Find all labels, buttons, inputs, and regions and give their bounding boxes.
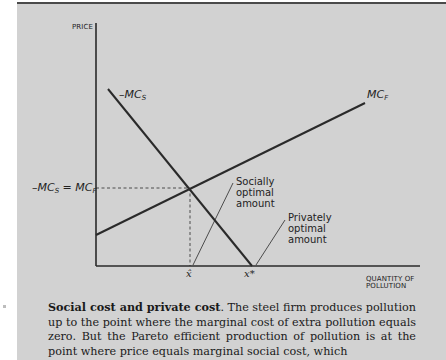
mcs-curve-label: –MCS — [119, 88, 146, 102]
mcs-label-main: –MC — [119, 88, 142, 101]
private-annot-line1: Privately — [288, 212, 332, 223]
social-optimum-annotation: Socially optimal amount — [236, 176, 275, 209]
x-hat-tick-label: x̂ — [186, 268, 192, 279]
mcs-label-sub: S — [142, 94, 146, 102]
social-annot-line2: optimal — [236, 187, 275, 198]
private-optimum-leader — [256, 220, 285, 265]
social-annot-line1: Socially — [236, 176, 275, 187]
private-annot-line2: optimal — [288, 223, 332, 234]
mcs-curve — [108, 89, 252, 266]
equilibrium-price-label: –MCS = MCF — [32, 181, 97, 195]
figure-caption: Social cost and private cost. The steel … — [48, 300, 416, 359]
eq-right-sub: F — [93, 187, 97, 195]
x-star-tick-label: x* — [244, 268, 255, 279]
eq-left-main: –MC — [32, 181, 55, 194]
social-annot-line3: amount — [236, 198, 275, 209]
y-axis-label: PRICE — [72, 24, 93, 31]
social-optimum-leader — [193, 183, 233, 265]
eq-right-main: = MC — [59, 181, 92, 194]
caption-title: Social cost and private cost — [48, 300, 220, 314]
stray-mark — [3, 305, 6, 308]
mcf-label-sub: F — [384, 94, 388, 102]
mcf-curve-label: MCF — [367, 88, 388, 102]
chart-plot — [0, 0, 446, 290]
mcf-label-main: MC — [367, 88, 384, 101]
x-axis-label-line2: POLLUTION — [366, 283, 406, 290]
private-annot-line3: amount — [288, 234, 332, 245]
private-optimum-annotation: Privately optimal amount — [288, 212, 332, 245]
